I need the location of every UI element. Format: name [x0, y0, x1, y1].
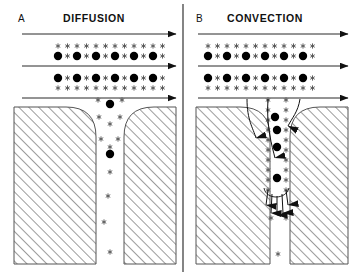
- particle-dot: [242, 74, 250, 82]
- particle-dot: [280, 52, 288, 60]
- particle-dot: [273, 126, 281, 134]
- cavity-wall-right: [290, 107, 348, 264]
- particle-dot: [111, 74, 119, 82]
- cavity-wall-left: [196, 107, 270, 264]
- particle-dot: [54, 74, 62, 82]
- particle-dot: [149, 52, 157, 60]
- particle-dot: [111, 52, 119, 60]
- panel-a-cavity-blocks: [14, 107, 176, 264]
- particle-dot: [106, 150, 114, 158]
- panel-a-letter: A: [18, 13, 25, 24]
- particle-dot: [299, 74, 307, 82]
- particle-dot: [261, 52, 269, 60]
- cavity-wall-right: [124, 107, 176, 264]
- particle-dot: [130, 52, 138, 60]
- particle-dot: [130, 74, 138, 82]
- particle-dot: [273, 174, 281, 182]
- figure-root: A DIFFUSION B CONVECTION: [0, 0, 352, 278]
- particle-dot: [204, 74, 212, 82]
- panel-a-title: DIFFUSION: [63, 12, 125, 24]
- particle-dot: [204, 52, 212, 60]
- particle-dot: [92, 52, 100, 60]
- particle-dot: [273, 143, 281, 151]
- particle-dot: [73, 52, 81, 60]
- particle-dot: [149, 74, 157, 82]
- diffusion-convection-diagram: A DIFFUSION B CONVECTION: [0, 0, 352, 278]
- panel-b-letter: B: [196, 13, 203, 24]
- particle-dot: [73, 74, 81, 82]
- particle-dot: [242, 52, 250, 60]
- particle-dot: [261, 74, 269, 82]
- particle-dot: [280, 74, 288, 82]
- particle-dot: [54, 52, 62, 60]
- particle-dot: [271, 113, 279, 121]
- particle-dot: [223, 74, 231, 82]
- particle-dot: [223, 52, 231, 60]
- panel-b-title: CONVECTION: [227, 12, 303, 24]
- particle-dot: [92, 74, 100, 82]
- particle-dot: [299, 52, 307, 60]
- particle-dot: [106, 100, 114, 108]
- cavity-wall-left: [14, 107, 96, 264]
